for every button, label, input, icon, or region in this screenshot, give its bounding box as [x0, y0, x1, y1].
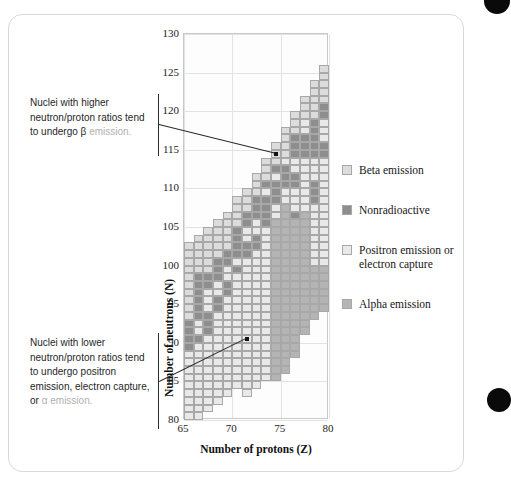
y-axis-title: Number of neutrons (N): [163, 238, 175, 438]
legend: Beta emission Nonradioactive Positron em…: [342, 163, 492, 321]
annotation-bottom-text-dim: α emission.: [42, 395, 93, 406]
annotation-top: Nuclei with higher neutron/proton ratios…: [30, 96, 152, 140]
legend-label-alpha-emission: Alpha emission: [359, 297, 431, 311]
legend-swatch-beta-emission: [342, 165, 352, 175]
x-axis-ticks: 65707580: [183, 423, 328, 439]
y-axis-tick-label: 125: [143, 67, 179, 78]
y-axis-title-wrap: Number of neutrons (N): [131, 120, 147, 320]
legend-item-beta-emission: Beta emission: [342, 163, 492, 177]
x-axis-tick-label: 70: [211, 423, 251, 434]
y-axis-tick-label: 115: [143, 144, 179, 155]
y-axis-tick-label: 110: [143, 182, 179, 193]
x-axis-tick-label: 75: [260, 423, 300, 434]
y-axis-tick-label: 105: [143, 221, 179, 232]
legend-label-positron-emission: Positron emission or electron capture: [359, 243, 492, 271]
gridline-vertical: [329, 34, 330, 418]
legend-label-beta-emission: Beta emission: [359, 163, 424, 177]
x-axis-tick-label: 80: [308, 423, 348, 434]
x-axis-title: Number of protons (Z): [150, 443, 362, 455]
legend-item-nonradioactive: Nonradioactive: [342, 203, 492, 217]
legend-swatch-nonradioactive: [342, 205, 352, 215]
legend-swatch-positron-emission: [342, 245, 352, 255]
legend-item-positron-emission: Positron emission or electron capture: [342, 243, 492, 271]
annotation-bottom: Nuclei with lower neutron/proton ratios …: [30, 336, 152, 409]
annotation-bottom-text: Nuclei with lower neutron/proton ratios …: [30, 337, 150, 392]
annotation-target-points: [184, 34, 327, 418]
plot-area: [183, 33, 328, 419]
annotation-top-text-dim: emission.: [89, 126, 131, 137]
y-axis-tick-label: 130: [143, 28, 179, 39]
legend-item-alpha-emission: Alpha emission: [342, 297, 492, 311]
legend-swatch-alpha-emission: [342, 299, 352, 309]
gridline-horizontal: [184, 420, 327, 421]
annotation-bottom-text-prefix: or: [30, 395, 39, 406]
legend-label-nonradioactive: Nonradioactive: [359, 203, 430, 217]
